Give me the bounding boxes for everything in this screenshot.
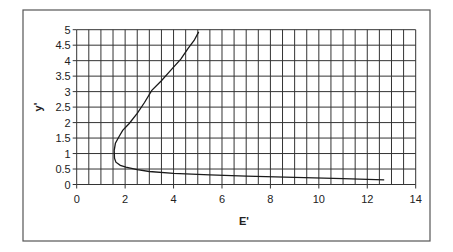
chart: 00.511.522.533.544.55 02468101214 E' y'	[0, 0, 453, 252]
x-tick-label: 0	[74, 193, 80, 205]
x-tick-label: 12	[361, 193, 373, 205]
x-axis-title: E'	[239, 215, 249, 227]
y-tick-label: 3.5	[55, 70, 70, 82]
x-tick-label: 14	[410, 193, 422, 205]
y-tick-label: 4	[65, 55, 71, 67]
y-tick-label: 3	[65, 86, 71, 98]
y-tick-label: 0.5	[55, 163, 70, 175]
y-tick-label: 1	[65, 148, 71, 160]
x-tick-label: 2	[122, 193, 128, 205]
y-tick-label: 5	[65, 24, 71, 36]
y-axis-title: y'	[32, 102, 44, 111]
y-tick-label: 0	[65, 179, 71, 191]
chart-frame	[23, 10, 430, 241]
y-tick-label: 4.5	[55, 39, 70, 51]
x-tick-label: 10	[313, 193, 325, 205]
x-tick-label: 4	[170, 193, 176, 205]
x-tick-label: 8	[267, 193, 273, 205]
y-tick-label: 1.5	[55, 132, 70, 144]
x-tick-label: 6	[219, 193, 225, 205]
y-tick-label: 2.5	[55, 101, 70, 113]
y-tick-label: 2	[65, 117, 71, 129]
